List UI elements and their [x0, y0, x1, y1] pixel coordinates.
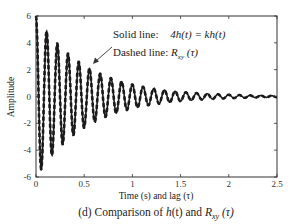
- dashed-line-label: Dashed line: Rxy (τ): [113, 46, 198, 61]
- y-tick-label: 6: [27, 11, 32, 21]
- figure-caption: (d) Comparison of h(t) and Rxy (τ): [78, 206, 234, 221]
- y-tick-label: -6: [24, 172, 32, 182]
- x-tick-label: 2.5: [271, 179, 283, 189]
- x-tick-label: 1: [130, 179, 135, 189]
- annotation-arrow: [93, 47, 112, 64]
- x-tick-label: 1.5: [175, 179, 187, 189]
- y-tick-label: 4: [27, 38, 32, 48]
- x-axis-label: Time (s) and lag (τ): [119, 191, 194, 202]
- x-tick-label: 0.5: [79, 179, 91, 189]
- y-axis-label: Amplitude: [6, 77, 16, 118]
- y-tick-label: 2: [27, 65, 32, 75]
- solid-line-label: Solid line: 4h(t) = kh(t): [113, 28, 226, 41]
- x-tick-label: 0: [34, 179, 39, 189]
- chart-figure: 00.511.522.5 -6-4-20246 Solid line: 4h(t…: [0, 0, 299, 224]
- x-tick-label: 2: [227, 179, 232, 189]
- y-tick-label: -2: [24, 118, 32, 128]
- y-tick-label: 0: [27, 92, 32, 102]
- y-tick-label: -4: [24, 145, 32, 155]
